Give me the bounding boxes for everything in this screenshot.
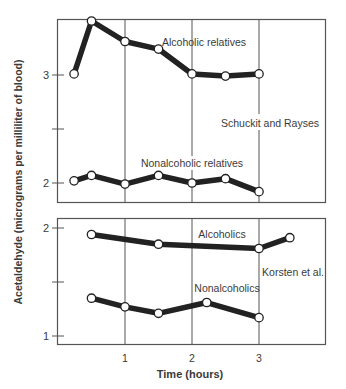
data-point-marker <box>154 171 162 179</box>
y-axis-title: Acetaldehyde (micrograms per milliliter … <box>12 59 24 304</box>
data-point-marker <box>87 17 95 25</box>
series-alcoholics <box>87 230 294 252</box>
data-point-marker <box>154 309 162 317</box>
data-point-marker <box>70 70 78 78</box>
series-line <box>74 175 259 191</box>
lower-ytick-1: 1 <box>43 330 49 342</box>
data-point-marker <box>255 187 263 195</box>
label-alcoholic-relatives: Alcoholic relatives <box>162 36 246 48</box>
data-point-marker <box>203 298 211 306</box>
data-point-marker <box>255 244 263 252</box>
data-point-marker <box>87 171 95 179</box>
data-point-marker <box>255 70 263 78</box>
x-axis-title: Time (hours) <box>157 368 224 380</box>
study-label-schuckit-rayses: Schuckit and Rayses <box>221 117 319 129</box>
data-point-marker <box>286 234 294 242</box>
data-point-marker <box>121 37 129 45</box>
lower-ytick-2: 2 <box>43 222 49 234</box>
series-nonalcoholics <box>87 294 263 322</box>
xtick-3: 3 <box>256 352 262 364</box>
series-line <box>74 21 259 76</box>
upper-ytick-2: 2 <box>43 177 49 189</box>
data-point-marker <box>154 240 162 248</box>
data-point-marker <box>121 303 129 311</box>
data-point-marker <box>221 174 229 182</box>
series-alcoholic-relatives <box>70 17 263 80</box>
data-point-marker <box>70 177 78 185</box>
data-point-marker <box>87 294 95 302</box>
data-point-marker <box>188 179 196 187</box>
label-alcoholics: Alcoholics <box>198 228 245 240</box>
acetaldehyde-chart: 3 2 Alcoholic relatives Schuckit and Ray… <box>0 0 346 389</box>
data-point-marker <box>255 313 263 321</box>
data-point-marker <box>221 72 229 80</box>
series-nonalcoholic-relatives <box>70 171 263 196</box>
xtick-2: 2 <box>189 352 195 364</box>
upper-ytick-3: 3 <box>43 69 49 81</box>
data-point-marker <box>121 180 129 188</box>
data-point-marker <box>188 70 196 78</box>
series-line <box>92 298 260 317</box>
study-label-korsten: Korsten et al. <box>262 266 324 278</box>
xtick-1: 1 <box>122 352 128 364</box>
lower-panel: 2 1 Alcoholics Korsten et al. Nonalcohol… <box>43 219 326 345</box>
label-nonalcoholic-relatives: Nonalcoholic relatives <box>141 157 243 169</box>
data-point-marker <box>87 230 95 238</box>
label-nonalcoholics: Nonalcoholics <box>194 282 259 294</box>
upper-panel: 3 2 Alcoholic relatives Schuckit and Ray… <box>43 17 326 203</box>
